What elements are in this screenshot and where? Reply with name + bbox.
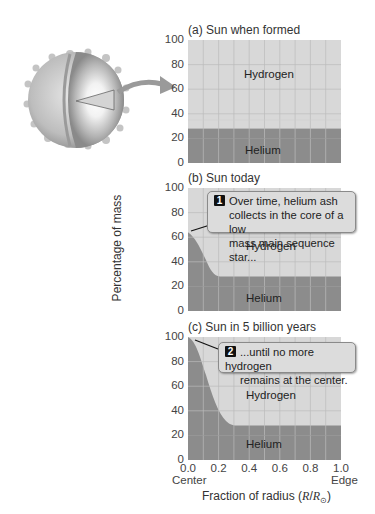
y-tick: 80	[158, 58, 184, 70]
panel-a-plot: Hydrogen Helium	[188, 40, 341, 163]
y-tick: 0	[158, 156, 184, 168]
x-tick: 0.4	[234, 462, 264, 474]
y-tick: 20	[158, 131, 184, 143]
callout-2: 2...until no more hydrogen remains at th…	[218, 342, 356, 373]
callout-line: mass main sequence star...	[214, 236, 349, 264]
step-number-badge: 1	[214, 195, 225, 206]
y-tick: 0	[158, 304, 184, 316]
y-tick: 100	[158, 330, 184, 342]
helium-label: Helium	[245, 144, 281, 156]
x-tick: 0.8	[295, 462, 325, 474]
y-tick: 80	[158, 355, 184, 367]
y-tick: 80	[158, 206, 184, 218]
callout-line: collects in the core of a low	[214, 208, 349, 236]
hydrogen-label: Hydrogen	[244, 68, 294, 80]
x-axis-label: Fraction of radius (R/R⊙)	[202, 489, 331, 505]
x-tick: 0.2	[204, 462, 234, 474]
y-tick: 40	[158, 107, 184, 119]
y-tick: 100	[158, 33, 184, 45]
callout-line: remains at the center.	[225, 373, 349, 387]
y-tick: 60	[158, 82, 184, 94]
y-axis-label: Percentage of mass	[110, 183, 124, 313]
panel-a-title: (a) Sun when formed	[188, 23, 300, 37]
callout-1: 1Over time, helium ash collects in the c…	[207, 191, 356, 233]
y-tick: 20	[158, 279, 184, 291]
x-tick: 0.6	[265, 462, 295, 474]
y-tick: 40	[158, 404, 184, 416]
x-tick: 1.0	[326, 462, 356, 474]
x-axis-center-label: Center	[172, 474, 207, 486]
y-tick: 100	[158, 181, 184, 193]
y-tick: 20	[158, 428, 184, 440]
helium-label: Helium	[246, 292, 282, 304]
y-tick: 60	[158, 230, 184, 242]
x-tick: 0.0	[173, 462, 203, 474]
step-number-badge: 2	[225, 346, 236, 357]
y-tick: 60	[158, 379, 184, 391]
helium-label: Helium	[246, 438, 282, 450]
x-axis-edge-label: Edge	[331, 474, 358, 486]
callout-line: 1Over time, helium ash	[214, 194, 349, 208]
panel-b-title: (b) Sun today	[188, 171, 260, 185]
y-tick: 40	[158, 255, 184, 267]
panel-c-title: (c) Sun in 5 billion years	[188, 320, 316, 334]
hydrogen-label: Hydrogen	[246, 389, 296, 401]
callout-line: 2...until no more hydrogen	[225, 345, 349, 373]
